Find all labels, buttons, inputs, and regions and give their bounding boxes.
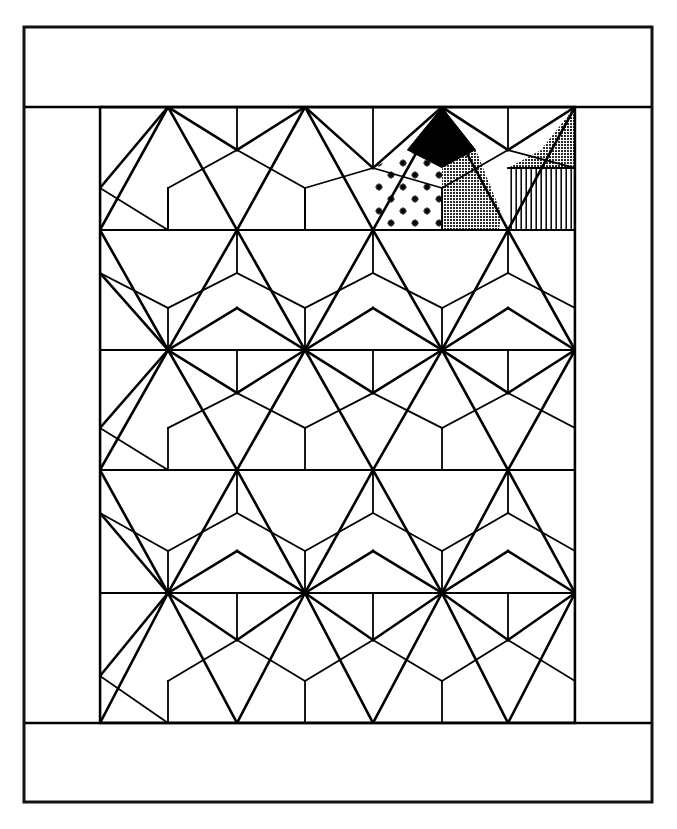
striped-region xyxy=(508,168,575,230)
top-blank-band xyxy=(24,27,652,107)
left-blank-margin xyxy=(24,107,100,723)
right-blank-margin xyxy=(575,107,652,723)
bottom-blank-band xyxy=(24,723,652,802)
tessellation-figure xyxy=(0,0,677,829)
figure-canvas: line-drawing tessellation-panel black-tr… xyxy=(0,0,677,829)
